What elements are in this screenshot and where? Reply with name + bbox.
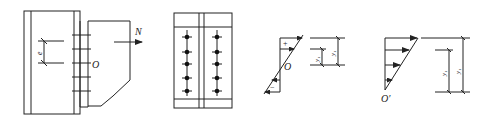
bolt-icon	[182, 76, 192, 81]
y-dimensions: y₁ y₁	[310, 36, 345, 67]
eccentricity-dimension: e	[35, 38, 64, 66]
panel-bolt-layout	[174, 13, 232, 108]
bolt-icon	[182, 62, 192, 67]
bolt-icon	[212, 89, 222, 94]
force-label-n: N	[134, 26, 143, 37]
bolt-icon	[182, 89, 192, 94]
bolt-column-left	[182, 30, 192, 96]
panel-connection-elevation: e O N	[24, 11, 143, 114]
bolt-column-right	[212, 30, 222, 96]
end-plate	[80, 21, 88, 107]
center-label-o-prime: O′	[381, 93, 391, 104]
diagram-canvas: e O N	[0, 0, 485, 119]
center-label-o: O	[284, 61, 291, 72]
dimension-label-inner: y₁	[313, 56, 321, 63]
bolt-icon	[212, 50, 222, 55]
bolt-icon	[182, 35, 192, 40]
eccentricity-label: e	[35, 51, 44, 55]
bolt-icon	[212, 62, 222, 67]
compression-sign: −	[270, 83, 275, 92]
tension-sign: +	[283, 39, 288, 48]
dimension-label-outer: y₁	[329, 50, 337, 57]
panel-stress-about-o: + O − y₁ y₁	[264, 35, 345, 94]
dimension-label-inner: y₁	[440, 70, 448, 77]
center-label-o: O	[92, 59, 99, 70]
stress-line	[385, 38, 418, 90]
bolt-icon	[182, 50, 192, 55]
panel-stress-about-o-prime: O′ y₁ y₁	[381, 36, 470, 104]
y-dimensions: y₁ y₁	[421, 36, 470, 94]
dimension-label-outer: y₁	[454, 68, 462, 75]
bolt-icon	[212, 35, 222, 40]
bolt-icon	[212, 76, 222, 81]
